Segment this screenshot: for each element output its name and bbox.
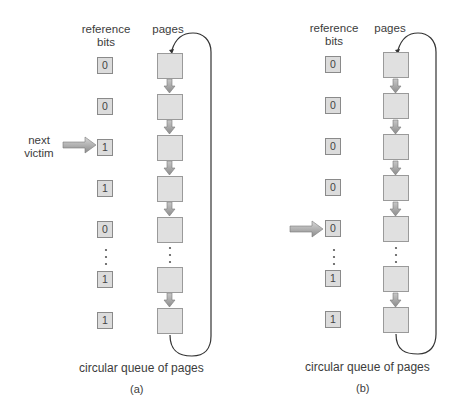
reference-bit: 1 <box>325 270 341 287</box>
reference-bit: 0 <box>325 220 341 237</box>
page-frame <box>157 308 183 334</box>
reference-bit: 0 <box>325 138 341 155</box>
page-frame <box>157 176 183 202</box>
page-frame <box>383 134 409 160</box>
page-frame <box>157 267 183 293</box>
vertical-dots-icon <box>105 247 171 265</box>
page-frame <box>383 93 409 119</box>
reference-bit: 1 <box>97 139 113 156</box>
reference-bit: 0 <box>325 179 341 196</box>
right-arrow-icon <box>63 137 96 153</box>
page-frame <box>157 135 183 161</box>
right-arrow-icon <box>290 221 323 237</box>
reference-bit: 1 <box>97 312 113 329</box>
page-frame <box>157 53 183 79</box>
page-frame <box>383 52 409 78</box>
page-frame <box>383 175 409 201</box>
page-frame <box>383 307 409 333</box>
reference-bit: 0 <box>97 221 113 238</box>
panel-b: reference bits pages 0 0 0 0 0 <box>229 0 459 412</box>
reference-bit: 0 <box>325 56 341 73</box>
page-frame <box>157 94 183 120</box>
panel-a: reference bits pages next victim <box>0 0 230 412</box>
panel-label: (b) <box>356 382 369 394</box>
page-frame <box>157 217 183 243</box>
caption: circular queue of pages <box>305 360 430 374</box>
caption: circular queue of pages <box>79 361 204 375</box>
reference-bit: 1 <box>325 311 341 328</box>
page-frame <box>383 266 409 292</box>
panel-label: (a) <box>130 383 143 395</box>
connectors-b <box>229 0 459 412</box>
vertical-dots-icon <box>333 247 397 265</box>
reference-bit: 0 <box>97 98 113 115</box>
page-frame <box>383 216 409 242</box>
connectors-a <box>0 0 230 412</box>
reference-bit: 1 <box>97 271 113 288</box>
reference-bit: 0 <box>325 97 341 114</box>
reference-bit: 1 <box>97 180 113 197</box>
reference-bit: 0 <box>97 57 113 74</box>
